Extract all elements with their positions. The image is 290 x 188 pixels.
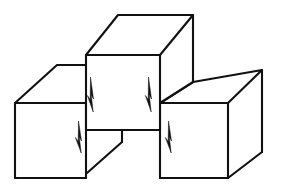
left-cube-front-face: [15, 103, 86, 178]
impossible-figure-canvas: [0, 0, 290, 188]
right-cube-front-face: [160, 103, 228, 178]
impossible-figure-svg: [0, 0, 290, 188]
